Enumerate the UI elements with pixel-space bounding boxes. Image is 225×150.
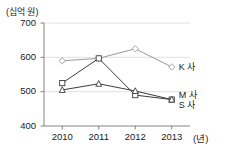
y-tick-label-500: 500: [6, 85, 36, 96]
x-tick-label-2011: 2011: [82, 131, 116, 142]
x-tick-label-2012: 2012: [118, 131, 152, 142]
line-chart: (십억 원) 4005006007002010201120122013(년) K…: [0, 0, 225, 150]
series-label-S-사: S 사: [179, 98, 196, 111]
marker-2-1: [96, 81, 102, 87]
marker-0-0: [59, 58, 65, 64]
x-tick-label-2010: 2010: [45, 131, 79, 142]
series-M-사: [60, 56, 175, 102]
series-line-0: [62, 49, 172, 67]
y-tick-label-600: 600: [6, 51, 36, 62]
marker-1-1: [96, 56, 101, 61]
series-label-K-사: K 사: [179, 60, 196, 73]
x-axis-unit-label: (년): [193, 131, 208, 145]
series-line-1: [62, 58, 172, 99]
marker-1-0: [60, 80, 65, 85]
x-tick-label-2013: 2013: [155, 131, 189, 142]
y-tick-label-400: 400: [6, 120, 36, 131]
marker-0-3: [169, 64, 175, 70]
series-K-사: [59, 46, 175, 70]
marker-0-2: [132, 46, 138, 52]
y-tick-label-700: 700: [6, 17, 36, 28]
